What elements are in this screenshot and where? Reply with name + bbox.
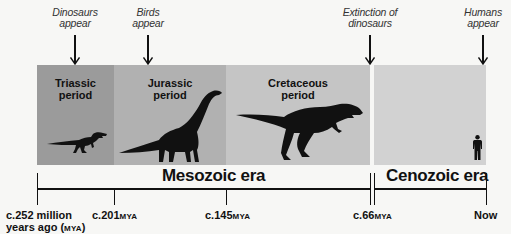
- tick-145: [226, 189, 228, 205]
- cenozoic-axis-line: [374, 188, 486, 190]
- tick-66-left: [370, 173, 372, 205]
- small-theropod-icon: [47, 132, 109, 154]
- event-label-line2: dinosaurs: [325, 18, 415, 29]
- date-label-145: c.145MYA: [205, 209, 250, 223]
- period-triassic: Triassic period: [37, 65, 114, 165]
- tyrannosaur-icon: [236, 103, 364, 161]
- date-label-66: c.66MYA: [353, 209, 392, 223]
- period-label: Cretaceous period: [226, 77, 370, 101]
- date-label-201: c.201MYA: [92, 209, 137, 223]
- date-label-now: Now: [474, 209, 497, 221]
- event-label-line2: appear: [103, 18, 193, 29]
- era-label-cenozoic: Cenozoic era: [386, 166, 488, 186]
- period-jurassic: Jurassic period: [114, 65, 226, 165]
- era-label-mesozoic: Mesozoic era: [162, 166, 265, 186]
- tick-201: [114, 189, 116, 205]
- period-cenozoic: [374, 65, 486, 165]
- event-label-line2: appear: [438, 18, 511, 29]
- period-label: Triassic period: [37, 77, 114, 101]
- tick-66-right: [374, 173, 376, 205]
- date-label-252: c.252 million years ago (MYA): [6, 209, 85, 234]
- period-cretaceous: Cretaceous period: [226, 65, 370, 165]
- mesozoic-axis-line: [37, 188, 370, 190]
- human-icon: [473, 135, 482, 160]
- sauropod-icon: [119, 90, 224, 165]
- tick-252: [37, 173, 39, 205]
